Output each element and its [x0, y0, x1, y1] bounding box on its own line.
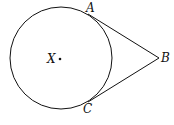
tangent-diagram: X A B C [0, 0, 174, 125]
tangent-ab [88, 14, 159, 58]
center-point-x [59, 58, 62, 61]
circle-x [10, 7, 112, 109]
label-x: X [46, 52, 56, 66]
label-c: C [83, 102, 92, 116]
tangent-cb [88, 58, 159, 102]
label-a: A [85, 1, 95, 15]
label-b: B [160, 51, 170, 65]
